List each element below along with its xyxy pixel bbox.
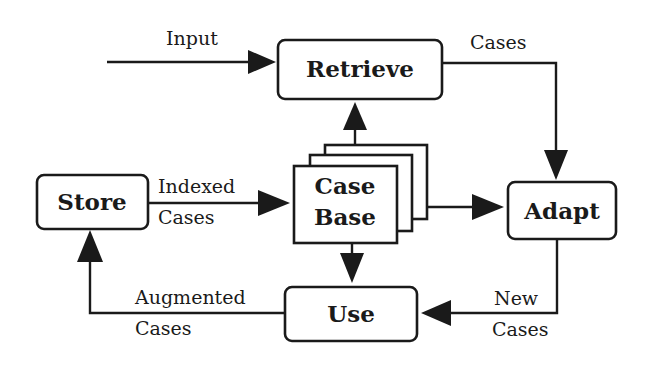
node-label-base: Base — [314, 203, 376, 230]
edge-label-new-1: New — [494, 287, 539, 309]
node-retrieve: Retrieve — [278, 40, 442, 99]
node-case-base: Case Base — [294, 145, 427, 243]
edge-label-indexed-1: Indexed — [158, 175, 235, 197]
edge-input: Input — [107, 27, 276, 74]
arrowhead-icon — [77, 230, 103, 262]
case-based-reasoning-diagram: Input Cases Indexed Cases New Cases — [0, 0, 651, 366]
edge-new-cases: New Cases — [421, 240, 557, 340]
arrowhead-icon — [258, 190, 290, 216]
node-adapt: Adapt — [508, 182, 616, 239]
edge-label-input: Input — [166, 27, 218, 49]
edge-label-indexed-2: Cases — [158, 206, 215, 228]
arrowhead-icon — [544, 150, 568, 180]
arrowhead-icon — [472, 194, 504, 220]
node-label-adapt: Adapt — [523, 197, 600, 224]
edge-label-cases: Cases — [470, 31, 527, 53]
node-label-use: Use — [327, 300, 375, 327]
arrowhead-icon — [248, 50, 276, 74]
edge-augmented-cases: Augmented Cases — [77, 230, 285, 339]
node-use: Use — [285, 287, 417, 341]
node-label-case: Case — [315, 172, 376, 199]
edge-retrieved-cases: Cases — [442, 31, 568, 180]
node-label-retrieve: Retrieve — [306, 55, 414, 82]
edge-indexed-cases: Indexed Cases — [148, 175, 290, 228]
node-store: Store — [37, 175, 148, 229]
edge-label-augmented-1: Augmented — [134, 286, 246, 308]
edge-label-augmented-2: Cases — [135, 317, 192, 339]
edge-casebase-to-retrieve — [343, 102, 367, 145]
arrowhead-icon — [421, 300, 451, 326]
arrowhead-icon — [343, 102, 367, 130]
edge-casebase-to-adapt — [428, 194, 504, 220]
edge-casebase-to-use — [340, 243, 364, 283]
node-label-store: Store — [57, 188, 126, 215]
arrowhead-icon — [340, 253, 364, 283]
edge-label-new-2: Cases — [492, 318, 549, 340]
